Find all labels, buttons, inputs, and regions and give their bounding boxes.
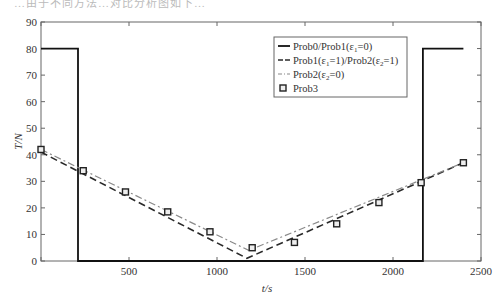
x-tick-label: 1500 [294,265,317,277]
prob3-marker [38,146,44,152]
prob3-marker [334,221,340,227]
prob3-marker [80,168,86,174]
y-tick-label: 90 [26,16,38,28]
y-tick-label: 50 [26,122,38,134]
legend-marker-icon [280,85,286,91]
prob3-marker [460,160,466,166]
prob3-marker [376,200,382,206]
series-line [41,150,463,251]
y-tick-label: 30 [26,175,38,187]
legend: Prob0/Prob1(ε1=0)Prob1(ε1=1)/Prob2(ε2=1)… [274,37,407,97]
x-axis-label: t/s [262,282,272,294]
prob3-marker [418,180,424,186]
legend-item-label: Prob3 [293,83,318,94]
line-chart: 01020304050607080905001000150020002500t/… [0,0,503,295]
prob3-marker [249,245,255,251]
series-line [41,152,463,258]
y-tick-label: 60 [26,96,38,108]
x-tick-label: 2000 [382,265,405,277]
prob3-marker [291,239,297,245]
x-tick-label: 1000 [206,265,229,277]
prob3-marker [207,229,213,235]
prob3-marker [165,209,171,215]
x-tick-label: 2500 [470,265,493,277]
plot-frame [41,22,481,261]
y-tick-label: 20 [26,202,38,214]
y-tick-label: 0 [32,255,38,267]
axes: 01020304050607080905001000150020002500t/… [12,16,493,294]
y-axis-label: T/N [12,133,24,150]
y-tick-label: 80 [26,43,38,55]
x-tick-label: 500 [121,265,138,277]
y-tick-label: 40 [26,149,38,161]
y-tick-label: 70 [26,69,38,81]
y-tick-label: 10 [26,228,38,240]
prob3-marker [122,189,128,195]
